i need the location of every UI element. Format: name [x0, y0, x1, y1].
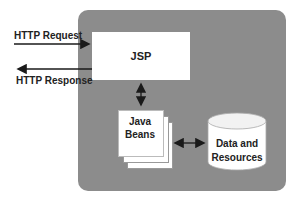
data-resources-label: Data and Resources — [208, 137, 266, 165]
data-line-1: Data and — [208, 137, 266, 151]
data-line-2: Resources — [208, 151, 266, 165]
diagram-arrows — [0, 0, 302, 200]
